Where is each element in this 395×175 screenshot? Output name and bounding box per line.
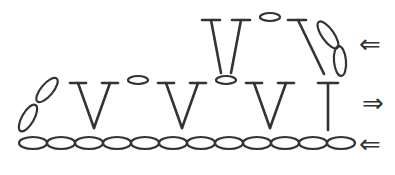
chain-stitch (75, 137, 103, 149)
row-1-direction-arrow-right-icon: ⇒ (362, 90, 384, 116)
chain-stitch (19, 137, 47, 149)
chain-stitch (131, 137, 159, 149)
chain-stitch (47, 137, 75, 149)
v-stitch (202, 20, 250, 73)
foundation-direction-arrow-left-icon: ⇐ (359, 131, 381, 157)
chain-1 (216, 76, 236, 84)
row-2 (202, 13, 347, 76)
foundation-chain (19, 137, 355, 149)
double-crochet-stitch (318, 83, 338, 130)
row-1-turning-chain (15, 75, 61, 134)
chain-stitch (299, 137, 327, 149)
chain-stitch (271, 137, 299, 149)
row-2-direction-arrow-left-icon: ⇐ (359, 31, 381, 57)
chain-stitch (327, 137, 355, 149)
chain-stitch (243, 137, 271, 149)
chain-1 (260, 13, 280, 21)
chain-stitch (33, 75, 61, 106)
chain-stitch (333, 46, 348, 77)
chain-stitch (187, 137, 215, 149)
chain-stitch (159, 137, 187, 149)
row-1 (70, 76, 338, 130)
row-2-turning-chain (314, 18, 347, 76)
v-stitch (246, 83, 294, 128)
v-stitch (70, 83, 118, 128)
chain-stitch (15, 102, 40, 134)
chain-1 (128, 76, 148, 84)
chain-stitch (215, 137, 243, 149)
v-stitch (158, 83, 206, 128)
chain-stitch (103, 137, 131, 149)
crochet-chart (0, 0, 395, 175)
